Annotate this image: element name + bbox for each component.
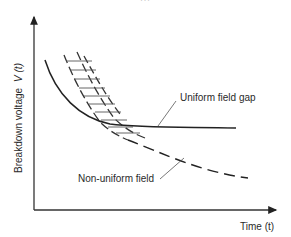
breakdown-voltage-diagram: Breakdown voltageV (t) Time (t) Uniform … xyxy=(0,0,291,237)
scatter-band xyxy=(64,52,145,140)
x-axis-label: Time (t) xyxy=(240,221,274,232)
uniform-field-label: Uniform field gap xyxy=(180,92,256,103)
nonuniform-leader xyxy=(160,158,184,179)
y-axis-label: Breakdown voltageV (t) xyxy=(13,63,24,173)
nonuniform-field-label: Non-uniform field xyxy=(78,173,154,184)
uniform-leader xyxy=(158,101,176,126)
